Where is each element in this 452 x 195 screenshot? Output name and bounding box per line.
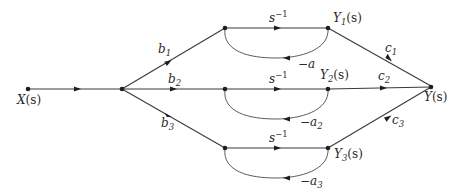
- edge-feedback-1: [225, 28, 328, 61]
- edge-input: [28, 87, 122, 92]
- label-b3: b3: [161, 116, 174, 132]
- label-input: X(s): [16, 93, 41, 107]
- label-y2: Y2(s): [320, 68, 349, 84]
- signal-flow-graph: X(s) b1 b2 b3 s−1 s−1 s−1 Y1(s) Y2(s) Y3…: [0, 0, 452, 195]
- arrow-icon: [380, 86, 387, 91]
- edge-c2: [328, 86, 431, 91]
- label-b2: b2: [168, 72, 181, 88]
- arrow-icon: [283, 56, 290, 61]
- node-y2: [326, 87, 331, 92]
- label-y3: Y3(s): [334, 147, 363, 163]
- label-c1: c1: [385, 41, 397, 57]
- edge-forward-2: [225, 87, 328, 92]
- node-y1: [326, 26, 331, 31]
- node-branch3-start: [223, 146, 228, 151]
- label-output: Y(s): [424, 90, 447, 104]
- arrow-icon: [274, 87, 281, 92]
- label-feedback-1: −a: [298, 57, 315, 71]
- label-c3: c3: [392, 113, 404, 129]
- arrow-icon: [283, 176, 290, 181]
- label-forward-3: s−1: [269, 129, 288, 145]
- label-feedback-2: −a2: [300, 115, 323, 131]
- label-forward-1: s−1: [269, 9, 288, 25]
- node-y3: [326, 146, 331, 151]
- node-input: [26, 87, 31, 92]
- arrow-icon: [283, 117, 290, 122]
- edge-forward-3: [225, 146, 328, 151]
- label-feedback-3: −a3: [300, 174, 323, 190]
- arrow-icon: [274, 146, 281, 151]
- label-y1: Y1(s): [333, 11, 362, 27]
- label-b1: b1: [158, 42, 171, 58]
- edge-forward-1: [225, 26, 328, 31]
- node-branch2-start: [223, 87, 228, 92]
- edge-b3: [122, 89, 225, 148]
- arrow-icon: [74, 87, 81, 92]
- label-forward-2: s−1: [269, 70, 288, 86]
- label-c2: c2: [378, 69, 390, 85]
- arrow-icon: [164, 60, 171, 66]
- node-output: [429, 85, 434, 90]
- edge-c3: [328, 87, 431, 148]
- edge-b2: [122, 87, 225, 92]
- node-branch: [120, 87, 125, 92]
- arrow-icon: [274, 26, 281, 31]
- node-branch1-start: [223, 26, 228, 31]
- arrow-icon: [384, 115, 392, 121]
